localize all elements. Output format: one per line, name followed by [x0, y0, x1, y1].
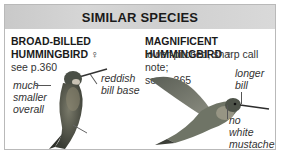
annotation-longer-bill: longer bill	[235, 67, 264, 91]
panel-header: SIMILAR SPECIES	[5, 5, 275, 29]
leader-line	[227, 105, 228, 119]
annotation-no-white-mustache: no white mustache	[229, 114, 275, 150]
species-name-broad-billed: BROAD-BILLED HUMMINGBIRD ♀	[11, 35, 99, 61]
similar-species-panel: SIMILAR SPECIES BROAD-BILLED HUMMINGBIRD…	[4, 4, 276, 150]
leader-line	[241, 92, 242, 104]
leader-line	[35, 85, 51, 86]
annotation-reddish-bill: reddish bill base	[101, 72, 140, 96]
panel-title: SIMILAR SPECIES	[82, 10, 198, 25]
